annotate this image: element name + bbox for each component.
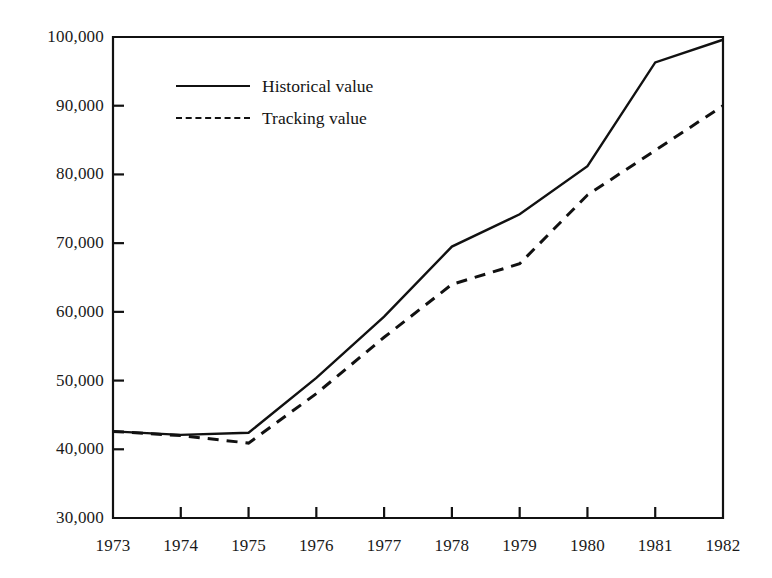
legend-swatch-dashed-line-icon [176,111,250,125]
y-axis-tick-label: 80,000 [56,164,104,184]
y-axis-tick-label: 30,000 [56,508,104,528]
legend-label-historical-value: Historical value [262,76,373,97]
x-axis-tick-label: 1981 [638,536,673,556]
y-axis-tick-label: 50,000 [56,371,104,391]
x-axis-tick-label: 1979 [502,536,537,556]
data-series-layer [113,40,723,443]
x-axis-ticks [181,507,655,518]
legend-item-historical-value: Historical value [176,76,373,96]
legend-swatch-solid-line-icon [176,79,250,93]
x-axis-tick-label: 1980 [570,536,605,556]
y-axis-tick-label: 70,000 [56,233,104,253]
y-axis-tick-label: 40,000 [56,439,104,459]
line-chart: 30,00040,00050,00060,00070,00080,00090,0… [0,0,772,578]
legend-label-tracking-value: Tracking value [262,108,367,129]
x-axis-tick-label: 1975 [231,536,266,556]
y-axis-tick-label: 90,000 [56,96,104,116]
y-axis-tick-label: 60,000 [56,302,104,322]
legend-item-tracking-value: Tracking value [176,108,367,128]
y-axis-tick-label: 100,000 [47,27,104,47]
x-axis-tick-label: 1982 [706,536,741,556]
x-axis-tick-label: 1976 [299,536,334,556]
plot-area [0,0,772,578]
y-axis-ticks [113,106,124,450]
series-line-historical-value [113,40,723,435]
x-axis-tick-label: 1974 [163,536,198,556]
x-axis-tick-label: 1973 [96,536,131,556]
x-axis-tick-label: 1978 [434,536,469,556]
x-axis-tick-label: 1977 [367,536,402,556]
series-line-tracking-value [113,106,723,443]
